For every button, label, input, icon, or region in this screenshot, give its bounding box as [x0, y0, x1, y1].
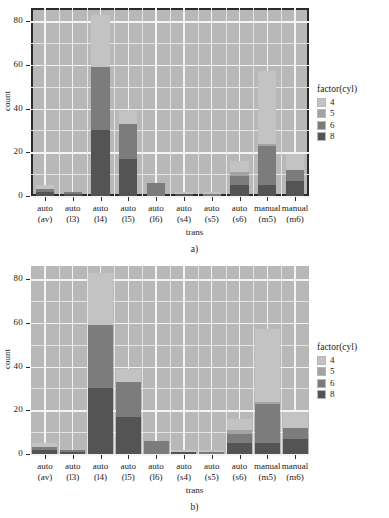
bar-segment[interactable] [36, 189, 54, 191]
bar-segment[interactable] [258, 71, 276, 143]
legend-key-box [317, 98, 326, 107]
y-tick-mark [26, 152, 30, 153]
bar-segment[interactable] [230, 185, 248, 196]
y-tick-label: 0 [0, 449, 23, 458]
bar-segment[interactable] [227, 430, 252, 434]
legend-item[interactable]: 5 [317, 367, 357, 377]
bar-segment[interactable] [283, 412, 308, 427]
y-tick-mark [26, 196, 30, 197]
bar-segment[interactable] [88, 273, 113, 325]
legend-title: factor(cyl) [317, 342, 357, 352]
bar-segment[interactable] [286, 170, 304, 181]
bar-stack[interactable] [199, 450, 224, 454]
bar-segment[interactable] [91, 67, 109, 130]
legend-item[interactable]: 4 [317, 355, 357, 365]
bar-segment[interactable] [119, 111, 137, 124]
bar-segment[interactable] [203, 192, 221, 194]
bar-stack[interactable] [147, 183, 165, 196]
bar-segment[interactable] [119, 159, 137, 196]
bar-segment[interactable] [116, 369, 141, 382]
bar-stack[interactable] [116, 369, 141, 454]
bar-stack[interactable] [230, 161, 248, 196]
bar-segment[interactable] [32, 450, 57, 454]
bar-segment[interactable] [32, 443, 57, 447]
bar-stack[interactable] [60, 450, 85, 454]
bar-stack[interactable] [258, 71, 276, 196]
x-tick-label-line2: (m6) [277, 472, 313, 483]
bar-segment[interactable] [36, 192, 54, 196]
bar-stack[interactable] [144, 441, 169, 454]
bar-segment[interactable] [88, 325, 113, 388]
bar-stack[interactable] [203, 192, 221, 196]
y-tick-mark [26, 367, 30, 368]
bar-segment[interactable] [258, 144, 276, 146]
bar-segment[interactable] [36, 185, 54, 189]
bar-segment[interactable] [64, 194, 82, 196]
bar-segment[interactable] [255, 329, 280, 401]
bar-segment[interactable] [230, 176, 248, 185]
bar-segment[interactable] [230, 161, 248, 172]
bar-segment[interactable] [91, 130, 109, 196]
x-tick-mark [101, 197, 102, 201]
bar-stack[interactable] [36, 185, 54, 196]
bar-stack[interactable] [255, 329, 280, 454]
bar-segment[interactable] [258, 146, 276, 185]
bar-segment[interactable] [171, 452, 196, 454]
bar-segment[interactable] [116, 417, 141, 454]
legend-color-swatch [318, 368, 325, 375]
bar-segment[interactable] [199, 452, 224, 454]
bar-segment[interactable] [283, 439, 308, 454]
bar-stack[interactable] [227, 419, 252, 454]
legend-item[interactable]: 4 [317, 97, 357, 107]
bar-segment[interactable] [258, 185, 276, 196]
bar-segment[interactable] [60, 452, 85, 454]
y-tick-label: 60 [0, 60, 23, 69]
bar-segment[interactable] [230, 172, 248, 176]
bar-stack[interactable] [175, 192, 193, 196]
bar-segment[interactable] [199, 450, 224, 452]
bar-stack[interactable] [88, 273, 113, 454]
bar-segment[interactable] [147, 183, 165, 196]
bar-stack[interactable] [91, 15, 109, 196]
bar-segment[interactable] [144, 441, 169, 454]
legend-item[interactable]: 8 [317, 390, 357, 400]
bar-segment[interactable] [286, 154, 304, 169]
bar-segment[interactable] [286, 181, 304, 196]
bar-segment[interactable] [60, 450, 85, 452]
bar-segment[interactable] [283, 428, 308, 439]
bar-segment[interactable] [171, 450, 196, 452]
bar-stack[interactable] [283, 412, 308, 454]
legend-item[interactable]: 6 [317, 378, 357, 388]
bar-segment[interactable] [88, 388, 113, 454]
bar-stack[interactable] [32, 443, 57, 454]
y-tick-label: 20 [0, 405, 23, 414]
bar-segment[interactable] [203, 194, 221, 196]
bar-segment[interactable] [227, 434, 252, 443]
legend-item[interactable]: 6 [317, 120, 357, 130]
bar-segment[interactable] [64, 192, 82, 194]
bar-segment[interactable] [91, 15, 109, 67]
legend-label: 6 [330, 379, 335, 388]
legend-item[interactable]: 5 [317, 109, 357, 119]
bar-stack[interactable] [64, 192, 82, 196]
x-tick-label-line1: manual [277, 461, 313, 472]
bar-stack[interactable] [119, 111, 137, 196]
legend-item[interactable]: 8 [317, 132, 357, 142]
bar-segment[interactable] [175, 192, 193, 194]
y-tick-mark [26, 21, 30, 22]
y-tick-mark [26, 410, 30, 411]
bar-segment[interactable] [227, 443, 252, 454]
bar-segment[interactable] [255, 402, 280, 404]
bar-segment[interactable] [32, 447, 57, 449]
bar-segment[interactable] [116, 382, 141, 417]
bar-segment[interactable] [175, 194, 193, 196]
bar-segment[interactable] [255, 443, 280, 454]
bar-segment[interactable] [227, 419, 252, 430]
bar-segment[interactable] [119, 124, 137, 159]
legend-key-box [317, 356, 326, 365]
bar-stack[interactable] [286, 154, 304, 196]
x-tick-mark [295, 197, 296, 201]
bar-stack[interactable] [171, 450, 196, 454]
y-axis-title: count [2, 78, 12, 124]
bar-segment[interactable] [255, 404, 280, 443]
